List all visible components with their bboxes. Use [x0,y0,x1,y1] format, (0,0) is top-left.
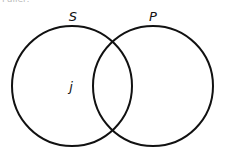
set-p-label: P [149,9,157,24]
set-s-label: S [69,9,77,24]
venn-diagram: S P j [0,0,226,156]
set-p-circle [93,26,213,146]
element-j-label: j [67,79,73,94]
